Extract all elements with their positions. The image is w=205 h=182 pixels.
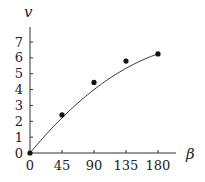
data-point bbox=[59, 112, 64, 117]
x-axis-label: β bbox=[185, 145, 195, 163]
y-tick-label: 6 bbox=[15, 50, 23, 65]
x-tick-labels: 04590135180 bbox=[26, 158, 171, 173]
data-point bbox=[27, 150, 32, 155]
y-tick-label: 0 bbox=[15, 146, 23, 161]
y-tick-label: 2 bbox=[15, 114, 23, 129]
y-tick-labels: 01234567 bbox=[15, 35, 23, 161]
fit-curve bbox=[30, 54, 158, 153]
x-tick-label: 135 bbox=[114, 158, 139, 173]
data-point bbox=[123, 58, 128, 63]
data-points bbox=[27, 51, 160, 155]
axes bbox=[30, 27, 176, 153]
y-tick-label: 4 bbox=[15, 82, 23, 97]
x-tick-label: 0 bbox=[26, 158, 34, 173]
data-point bbox=[155, 51, 160, 56]
x-tick-label: 90 bbox=[86, 158, 103, 173]
x-tick-label: 180 bbox=[146, 158, 171, 173]
y-tick-label: 7 bbox=[15, 35, 23, 50]
y-tick-label: 5 bbox=[15, 66, 23, 81]
y-tick-label: 3 bbox=[15, 98, 23, 113]
x-tick-label: 45 bbox=[54, 158, 71, 173]
y-tick-label: 1 bbox=[15, 130, 23, 145]
chart: 04590135180 01234567 v β bbox=[0, 0, 205, 182]
y-axis-label: v bbox=[24, 3, 33, 21]
data-point bbox=[91, 80, 96, 85]
